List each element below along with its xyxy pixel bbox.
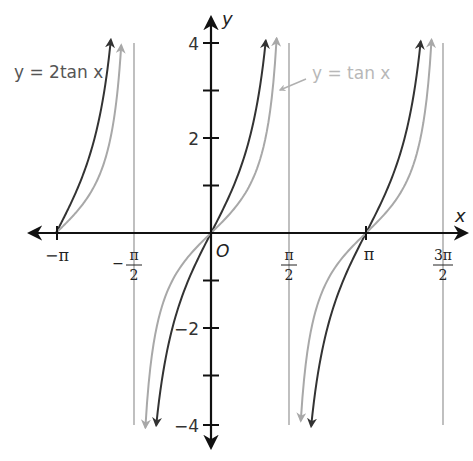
x-tick-label-pi: π	[364, 245, 375, 264]
svg-text:π: π	[284, 247, 293, 263]
axes	[30, 18, 466, 447]
svg-text:π: π	[129, 247, 138, 263]
legend-label-tan: y = tan x	[312, 63, 390, 83]
x-tick-label-neg-pi: −π	[45, 246, 69, 265]
chart-canvas: 4 2 −2 −4 y x O −π − π 2 π 2 π 3π 2 y = …	[0, 0, 473, 461]
svg-text:3π: 3π	[434, 247, 452, 263]
y-tick-label-4: 4	[188, 34, 199, 54]
svg-text:2: 2	[285, 267, 294, 283]
legend-pointer-arrow	[280, 79, 306, 90]
x-tick-label-neg-half-pi: − π 2	[112, 247, 142, 283]
svg-text:2: 2	[439, 267, 448, 283]
x-tick-label-three-half-pi: 3π 2	[433, 247, 453, 283]
svg-text:−: −	[112, 255, 124, 271]
x-axis-label: x	[454, 205, 466, 226]
y-tick-label-2: 2	[188, 129, 199, 149]
y-tick-label-neg2: −2	[174, 319, 199, 339]
x-tick-label-half-pi: π 2	[281, 247, 297, 283]
y-tick-label-neg4: −4	[174, 416, 199, 436]
y-axis-label: y	[221, 8, 233, 29]
legend-label-2tan: y = 2tan x	[14, 62, 103, 82]
origin-label: O	[216, 241, 229, 261]
svg-text:2: 2	[130, 267, 139, 283]
